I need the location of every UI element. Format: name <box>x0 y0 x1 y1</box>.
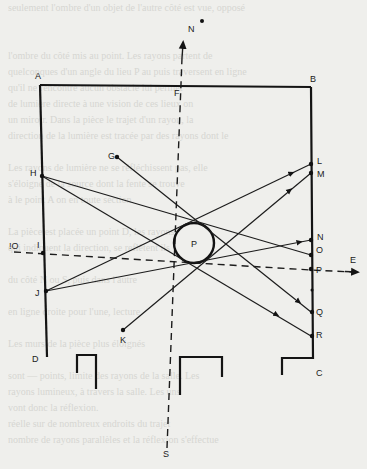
point-K <box>121 328 125 332</box>
ray-H-O <box>42 176 311 255</box>
label-G: G <box>108 151 115 161</box>
label-R: R <box>316 330 323 340</box>
east-arrow <box>345 272 356 273</box>
point-N <box>309 238 313 242</box>
label-H: H <box>30 168 37 178</box>
point-M <box>309 171 313 175</box>
ray-G-Q <box>117 157 311 312</box>
wall-left-AD <box>40 85 47 357</box>
point-P <box>309 267 313 271</box>
east-west-axis <box>14 252 352 272</box>
point-R <box>310 334 314 338</box>
label-A: A <box>35 71 41 81</box>
north-arrow <box>182 44 183 58</box>
wall-right-BC <box>282 87 313 375</box>
label-D: D <box>32 354 39 364</box>
label-N-compass: N <box>188 24 195 34</box>
ray-H-R <box>42 176 311 336</box>
point-H <box>40 174 44 178</box>
point-Q <box>310 310 314 314</box>
label-P-center: P <box>191 239 197 249</box>
point-L <box>309 162 313 166</box>
point-G <box>115 155 119 159</box>
diagram-page: seulement l'ombre d'un objet de l'autre … <box>0 0 367 469</box>
label-P-wall: P <box>316 265 322 275</box>
label-L: L <box>317 156 322 166</box>
ray-J-L <box>46 164 311 291</box>
optics-diagram: A B C D E F G H I J K L M N O P Q R S N … <box>0 0 367 469</box>
label-N-wall: N <box>317 232 324 242</box>
point-I <box>41 251 45 255</box>
wall-top-AB <box>40 85 311 87</box>
label-F: F <box>174 88 180 98</box>
bottom-block-middle <box>180 357 222 395</box>
label-west: !O <box>9 241 19 251</box>
label-J: J <box>35 288 40 298</box>
bottom-block-left <box>77 355 96 389</box>
label-E: E <box>350 255 356 265</box>
label-C: C <box>316 368 323 378</box>
label-M: M <box>317 169 325 179</box>
label-S: S <box>163 449 169 459</box>
label-I: I <box>37 240 40 250</box>
point-unlabeled <box>311 289 314 292</box>
label-K: K <box>120 335 126 345</box>
label-Q: Q <box>316 307 323 317</box>
point-O <box>309 253 313 257</box>
ray-K-M <box>123 173 311 330</box>
north-mark <box>200 19 204 23</box>
label-B: B <box>310 74 316 84</box>
point-J <box>44 289 48 293</box>
label-O-wall: O <box>316 245 323 255</box>
